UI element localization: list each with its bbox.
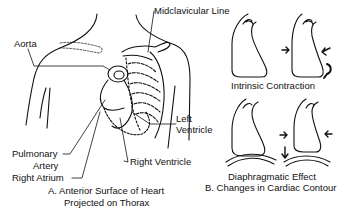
label-pulmonary-artery-2: Artery: [33, 160, 58, 171]
label-left-ventricle-1: Left: [176, 113, 192, 124]
clavicle: [60, 42, 102, 53]
label-right-atrium: Right Atrium: [12, 172, 64, 183]
caption-a-line1: A. Anterior Surface of Heart: [48, 185, 164, 197]
label-diaphragmatic-effect: Diaphragmatic Effect: [228, 171, 316, 182]
caption-b: B. Changes in Cardiac Contour: [205, 182, 337, 194]
label-intrinsic-contraction: Intrinsic Contraction: [231, 80, 315, 91]
label-right-ventricle: Right Ventricle: [130, 156, 191, 167]
caption-a-line2: Projected on Thorax: [64, 197, 149, 209]
label-pulmonary-artery-1: Pulmonary: [12, 148, 57, 159]
heart: [101, 66, 150, 135]
label-midclavicular-line: Midclavicular Line: [154, 5, 230, 16]
thorax-outline: [26, 14, 190, 148]
label-left-ventricle-2: Ventricle: [176, 124, 212, 135]
label-aorta: Aorta: [14, 38, 37, 49]
